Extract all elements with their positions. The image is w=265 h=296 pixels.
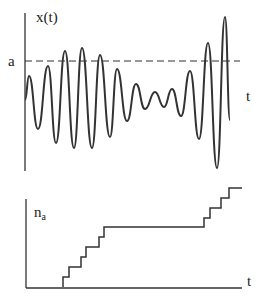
- count-staircase: [63, 188, 242, 287]
- top-x-label: t: [246, 89, 250, 104]
- bottom-y-label-sub: a: [42, 211, 46, 222]
- bottom-y-label: na: [34, 205, 46, 220]
- bottom-y-label-main: n: [34, 204, 42, 220]
- threshold-label: a: [8, 54, 15, 69]
- top-y-label: x(t): [36, 10, 58, 25]
- figure-canvas: [0, 0, 265, 296]
- bottom-x-label: t: [247, 274, 251, 289]
- signal-wave: [25, 17, 230, 168]
